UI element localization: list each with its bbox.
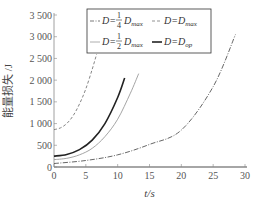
legend-label-half-dmax: D= (101, 36, 116, 47)
y-axis-label: 能量损失 /J (1, 63, 14, 118)
y-tick-label: 3 000 (30, 31, 53, 42)
y-tick-label: 0 (47, 162, 52, 173)
x-tick-label: 20 (176, 170, 186, 181)
x-tick-label: 10 (113, 170, 123, 181)
series-line (54, 78, 125, 156)
y-tick-label: 500 (37, 140, 52, 151)
series-line (54, 74, 139, 160)
y-tick-label: 1 000 (30, 118, 53, 129)
x-tick-label: 25 (208, 170, 218, 181)
legend: D= 1 4 Dmax D=Dmax D= 1 2 Dmax D=Dop (87, 9, 211, 53)
x-tick-label: 15 (145, 170, 155, 181)
svg-text:1: 1 (117, 32, 121, 41)
y-tick-label: 2 500 (30, 53, 53, 64)
y-tick-label: 1 500 (30, 96, 53, 107)
series-line (54, 54, 97, 130)
svg-text:1: 1 (117, 11, 121, 20)
x-axis-label: t/s (144, 187, 154, 199)
x-tick-label: 5 (83, 170, 88, 181)
series-line (54, 35, 235, 164)
legend-label-quarter-dmax: D= (101, 15, 116, 26)
x-tick-label: 0 (52, 170, 57, 181)
y-tick-label: 2 000 (30, 75, 53, 86)
energy-loss-chart: 05101520253005001 0001 5002 0002 5003 00… (0, 0, 257, 205)
x-tick-label: 30 (240, 170, 250, 181)
series-lines (54, 35, 235, 164)
svg-text:2: 2 (117, 42, 121, 51)
y-tick-label: 3 500 (30, 10, 53, 21)
svg-text:4: 4 (117, 21, 121, 30)
